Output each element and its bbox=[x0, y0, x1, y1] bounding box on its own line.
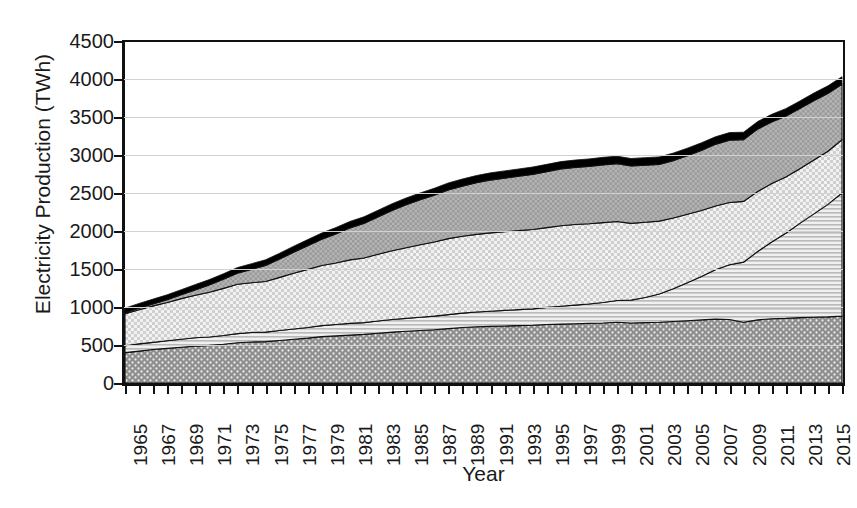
y-tick-mark bbox=[114, 41, 123, 43]
y-tick-label: 3500 bbox=[34, 107, 114, 127]
gridline bbox=[124, 155, 843, 156]
x-tick-mark bbox=[758, 385, 760, 394]
y-tick-mark bbox=[114, 269, 123, 271]
axis-line-left bbox=[122, 40, 125, 385]
x-tick-mark bbox=[772, 385, 774, 394]
x-tick-mark bbox=[167, 385, 169, 394]
x-tick-mark bbox=[561, 385, 563, 394]
x-tick-mark bbox=[237, 385, 239, 394]
x-tick-mark bbox=[322, 385, 324, 394]
x-tick-mark bbox=[715, 385, 717, 394]
x-tick-mark bbox=[153, 385, 155, 394]
x-tick-mark bbox=[266, 385, 268, 394]
x-tick-mark bbox=[828, 385, 830, 394]
x-tick-mark bbox=[434, 385, 436, 394]
x-tick-mark bbox=[181, 385, 183, 394]
x-axis-title: Year bbox=[122, 462, 845, 486]
x-tick-mark bbox=[448, 385, 450, 394]
x-tick-mark bbox=[617, 385, 619, 394]
gridline bbox=[124, 117, 843, 118]
y-tick-label: 3000 bbox=[34, 145, 114, 165]
x-tick-mark bbox=[392, 385, 394, 394]
x-tick-mark bbox=[139, 385, 141, 394]
x-tick-mark bbox=[575, 385, 577, 394]
x-tick-mark bbox=[519, 385, 521, 394]
x-tick-mark bbox=[701, 385, 703, 394]
gridline bbox=[124, 79, 843, 80]
axis-line-bottom bbox=[122, 383, 845, 386]
x-tick-mark bbox=[378, 385, 380, 394]
chart-figure: Electricity Production (TWh) 05001000150… bbox=[0, 0, 857, 508]
y-tick-mark bbox=[114, 345, 123, 347]
x-tick-mark bbox=[687, 385, 689, 394]
axis-line-top bbox=[122, 40, 845, 42]
x-tick-mark bbox=[491, 385, 493, 394]
x-tick-mark bbox=[730, 385, 732, 394]
y-tick-mark bbox=[114, 117, 123, 119]
y-tick-label: 500 bbox=[34, 335, 114, 355]
y-tick-mark bbox=[114, 231, 123, 233]
x-tick-mark bbox=[476, 385, 478, 394]
x-tick-mark bbox=[505, 385, 507, 394]
y-tick-mark bbox=[114, 383, 123, 385]
x-tick-mark bbox=[280, 385, 282, 394]
y-tick-label: 0 bbox=[34, 373, 114, 393]
x-tick-mark bbox=[308, 385, 310, 394]
x-tick-mark bbox=[589, 385, 591, 394]
x-tick-mark bbox=[631, 385, 633, 394]
gridline bbox=[124, 193, 843, 194]
y-tick-mark bbox=[114, 307, 123, 309]
x-tick-mark bbox=[336, 385, 338, 394]
gridline bbox=[124, 269, 843, 270]
x-tick-mark bbox=[547, 385, 549, 394]
y-tick-mark bbox=[114, 79, 123, 81]
x-tick-mark bbox=[252, 385, 254, 394]
x-tick-mark bbox=[420, 385, 422, 394]
y-tick-label: 4000 bbox=[34, 69, 114, 89]
x-tick-mark bbox=[800, 385, 802, 394]
y-tick-mark bbox=[114, 193, 123, 195]
x-tick-mark bbox=[350, 385, 352, 394]
y-tick-label: 1500 bbox=[34, 259, 114, 279]
x-tick-mark bbox=[294, 385, 296, 394]
x-tick-mark bbox=[645, 385, 647, 394]
x-tick-mark bbox=[406, 385, 408, 394]
y-tick-label: 4500 bbox=[34, 31, 114, 51]
x-tick-mark bbox=[364, 385, 366, 394]
y-tick-label: 2000 bbox=[34, 221, 114, 241]
x-tick-mark bbox=[842, 385, 844, 394]
x-tick-mark bbox=[744, 385, 746, 394]
y-tick-label: 2500 bbox=[34, 183, 114, 203]
x-tick-mark bbox=[814, 385, 816, 394]
stacked-area-series bbox=[122, 40, 845, 385]
gridline bbox=[124, 307, 843, 308]
x-tick-mark bbox=[209, 385, 211, 394]
axis-line-right bbox=[843, 40, 845, 385]
gridline bbox=[124, 231, 843, 232]
plot-area bbox=[122, 40, 845, 385]
gridline bbox=[124, 345, 843, 346]
x-tick-mark bbox=[533, 385, 535, 394]
x-tick-mark bbox=[659, 385, 661, 394]
x-tick-mark bbox=[786, 385, 788, 394]
x-tick-mark bbox=[673, 385, 675, 394]
x-tick-mark bbox=[462, 385, 464, 394]
x-tick-mark bbox=[195, 385, 197, 394]
y-tick-mark bbox=[114, 155, 123, 157]
x-tick-mark bbox=[223, 385, 225, 394]
y-tick-label: 1000 bbox=[34, 297, 114, 317]
x-tick-mark bbox=[603, 385, 605, 394]
x-tick-mark bbox=[125, 385, 127, 394]
